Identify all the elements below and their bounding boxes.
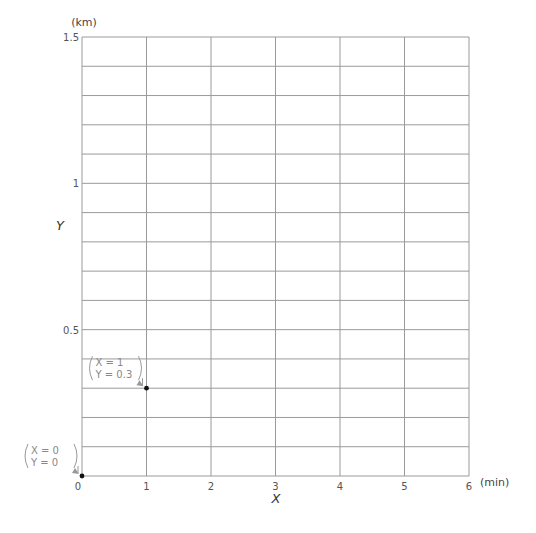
y-tick-label: 0.5	[63, 325, 79, 336]
x-tick-label: 2	[208, 481, 214, 492]
x-tick-label: 5	[401, 481, 407, 492]
x-tick-label: 1	[143, 481, 149, 492]
y-axis-label: Y	[56, 218, 65, 233]
tick-labels: 01234560.511.5	[63, 32, 472, 492]
y-tick-label: 1	[73, 178, 79, 189]
point-annotation: X = 0Y = 0	[25, 444, 77, 468]
x-unit-label: (min)	[480, 476, 509, 489]
y-unit-label: (km)	[71, 16, 97, 29]
data-point: X = 0Y = 0	[25, 444, 84, 478]
grid	[82, 37, 469, 476]
x-tick-label: 6	[466, 481, 472, 492]
x-tick-label: 4	[337, 481, 343, 492]
y-tick-label: 1.5	[63, 32, 79, 43]
point-annotation: X = 1Y = 0.3	[90, 356, 142, 380]
point-marker	[144, 386, 149, 391]
x-axis-label: X	[271, 491, 282, 506]
svg-text:X = 0: X = 0	[31, 445, 59, 456]
x-tick-label: 0	[75, 481, 81, 492]
svg-text:Y = 0.3: Y = 0.3	[95, 369, 133, 380]
svg-text:X = 1: X = 1	[96, 357, 124, 368]
point-marker	[80, 474, 85, 479]
data-point: X = 1Y = 0.3	[90, 356, 149, 390]
svg-text:Y = 0: Y = 0	[30, 457, 58, 468]
chart: 01234560.511.5 (km) (min) Y X X = 0Y = 0…	[0, 0, 536, 533]
